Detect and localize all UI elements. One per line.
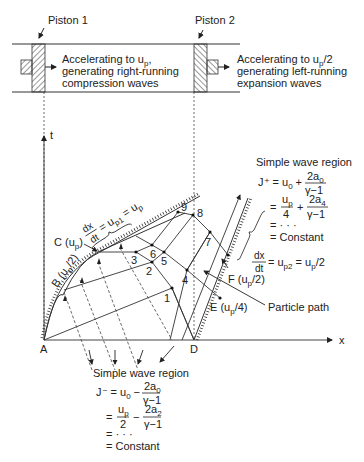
point-4: 4 bbox=[182, 274, 188, 286]
svg-text:−: − bbox=[133, 411, 139, 423]
piston-1-label: Piston 1 bbox=[48, 14, 88, 26]
nodes bbox=[134, 210, 229, 299]
svg-text:= Constant: = Constant bbox=[270, 231, 324, 243]
svg-text:= Constant: = Constant bbox=[106, 440, 160, 452]
svg-text:2a4: 2a4 bbox=[309, 193, 326, 208]
simple-wave-region-right: Simple wave region J⁺ = u0+ 2a0 γ−1 = up… bbox=[256, 156, 352, 243]
svg-text:E (up/4): E (up/4) bbox=[210, 301, 247, 316]
piston-2-label: Piston 2 bbox=[195, 14, 235, 26]
point-D: D bbox=[190, 343, 198, 355]
svg-text:= · · ·: = · · · bbox=[270, 219, 297, 231]
svg-text:dt: dt bbox=[255, 263, 264, 274]
svg-text:C (up): C (up) bbox=[54, 236, 83, 251]
piston-2-path bbox=[182, 195, 251, 340]
svg-text:B (up/2): B (up/2) bbox=[49, 252, 83, 291]
svg-text:=: = bbox=[270, 201, 276, 213]
point-3: 3 bbox=[131, 254, 137, 266]
svg-text:= up2 = up/2: = up2 = up/2 bbox=[268, 256, 325, 271]
piston-1: Piston 1 Accelerating to up, generating … bbox=[21, 14, 182, 330]
bottom-arrows bbox=[89, 346, 174, 364]
simple-wave-right-title: Simple wave region bbox=[256, 156, 352, 168]
svg-text:+: + bbox=[297, 201, 303, 213]
svg-text:γ−1: γ−1 bbox=[307, 208, 325, 220]
point-5: 5 bbox=[161, 255, 167, 267]
svg-text:dx: dx bbox=[254, 250, 265, 261]
svg-text:Particle path: Particle path bbox=[268, 301, 329, 313]
svg-text:γ−1: γ−1 bbox=[144, 418, 162, 430]
svg-text:=: = bbox=[106, 411, 112, 423]
simple-wave-region-bottom: Simple wave region J⁻ = u0− 2a0 γ−1 = up… bbox=[93, 367, 189, 452]
point-8: 8 bbox=[197, 207, 203, 219]
piston-2-desc: Accelerating to up/2 generating left-run… bbox=[237, 53, 350, 89]
svg-text:F (up/2): F (up/2) bbox=[228, 273, 265, 288]
svg-text:up: up bbox=[282, 193, 293, 208]
svg-text:J⁺ = u0+: J⁺ = u0+ bbox=[258, 176, 302, 191]
simple-wave-bottom-title: Simple wave region bbox=[93, 367, 189, 379]
svg-text:= · · ·: = · · · bbox=[106, 428, 133, 440]
point-A: A bbox=[40, 343, 48, 355]
point-2: 2 bbox=[146, 265, 152, 277]
svg-text:x: x bbox=[339, 334, 345, 346]
point-6: 6 bbox=[150, 248, 156, 260]
svg-text:up: up bbox=[118, 403, 129, 418]
point-9: 9 bbox=[181, 201, 187, 213]
point-1: 1 bbox=[164, 292, 170, 304]
point-7: 7 bbox=[205, 236, 211, 248]
label-E: E (up/4) bbox=[210, 301, 247, 316]
label-B: B (up/2) bbox=[49, 252, 83, 291]
svg-text:J⁻ = u0−: J⁻ = u0− bbox=[96, 386, 140, 401]
svg-text:t: t bbox=[50, 129, 53, 141]
piston-1-desc: Accelerating to up, generating right-run… bbox=[62, 53, 182, 89]
